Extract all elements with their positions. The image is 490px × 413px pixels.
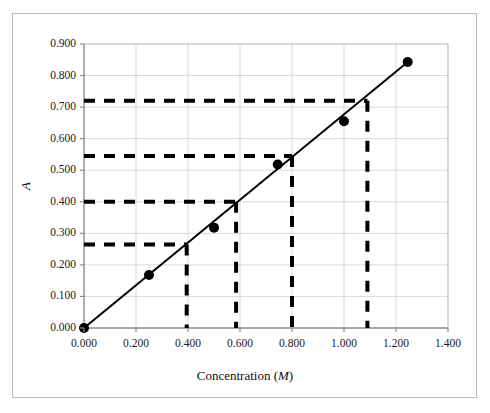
y-tick-label: 0.600 [28, 133, 76, 145]
y-tick-label: 0.500 [28, 164, 76, 176]
x-tick-label: 0.800 [279, 338, 305, 350]
y-axis-title: A [18, 182, 34, 190]
y-tick-label: 0.200 [28, 259, 76, 271]
y-tick-label: 0.900 [28, 38, 76, 50]
data-point [339, 116, 349, 126]
x-axis-title-close: ) [289, 368, 293, 383]
gridlines-group [84, 44, 448, 328]
y-tick-label: 0.000 [28, 322, 76, 334]
x-tick-label: 1.400 [435, 338, 461, 350]
data-point [403, 57, 413, 67]
x-axis-title-text: Concentration ( [197, 368, 278, 383]
x-tick-label: 0.200 [123, 338, 149, 350]
data-point [144, 270, 154, 280]
y-tick-label: 0.100 [28, 291, 76, 303]
axis-lines-group [84, 44, 448, 328]
y-tick-label: 0.400 [28, 196, 76, 208]
x-axis-title-unit: M [278, 368, 289, 383]
x-tick-label: 0.000 [71, 338, 97, 350]
y-tick-label: 0.700 [28, 101, 76, 113]
data-point [273, 160, 283, 170]
chart-figure: 0.0000.1000.2000.3000.4000.5000.6000.700… [0, 0, 490, 413]
x-tick-label: 1.200 [383, 338, 409, 350]
x-tick-label: 1.000 [331, 338, 357, 350]
tick-marks-group [80, 44, 448, 332]
data-point [209, 223, 219, 233]
x-axis-title: Concentration (M) [0, 368, 490, 384]
x-tick-label: 0.400 [175, 338, 201, 350]
x-tick-label: 0.600 [227, 338, 253, 350]
y-tick-label: 0.800 [28, 70, 76, 82]
y-tick-label: 0.300 [28, 228, 76, 240]
